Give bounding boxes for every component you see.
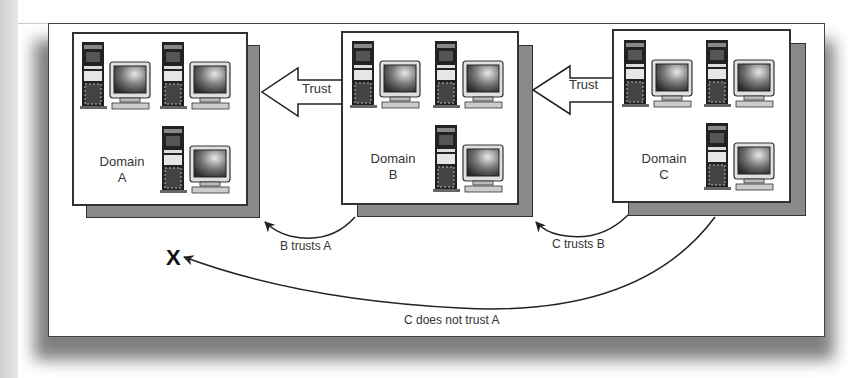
computer-icon (433, 125, 503, 192)
trust-label-b-to-a: Trust (302, 81, 331, 96)
trust-label-c-to-b: Trust (569, 77, 598, 92)
computer-icon (80, 42, 150, 109)
computer-icon (160, 42, 230, 109)
curve-c-trusts-b (536, 215, 628, 237)
curve-b-trusts-a (265, 217, 355, 238)
no-trust-x-mark: X (166, 245, 181, 271)
computer-icon (160, 126, 230, 193)
computer-icon (622, 40, 692, 107)
computer-icon (433, 41, 503, 108)
caption-c-not-trust-a: C does not trust A (404, 313, 499, 327)
computer-icon (704, 123, 774, 190)
computer-icon (704, 40, 774, 107)
caption-b-trusts-a: B trusts A (280, 239, 331, 253)
caption-c-trusts-b: C trusts B (552, 237, 605, 251)
computer-icon (350, 41, 420, 108)
curve-c-not-trust-a (184, 217, 715, 309)
